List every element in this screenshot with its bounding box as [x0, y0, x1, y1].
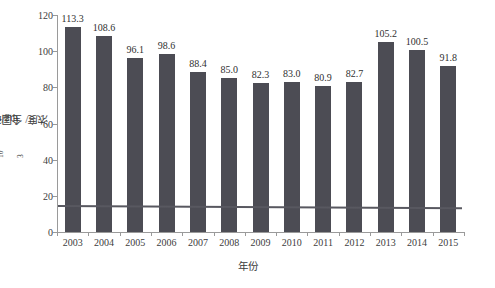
x-axis-tick-mark	[120, 232, 121, 236]
x-axis-category-label: 2015	[438, 237, 458, 248]
x-axis-tick-mark	[245, 232, 246, 236]
chart-figure: 全国平均城市PM10浓度/（μg/m3） 020406080100120 113…	[0, 0, 495, 288]
x-axis-category-label: 2003	[63, 237, 83, 248]
bar-value-label: 85.0	[220, 64, 238, 75]
bar-value-label: 108.6	[93, 22, 116, 33]
y-axis-tick-mark	[53, 51, 58, 52]
bar	[409, 50, 425, 232]
y-axis-title-prefix: 全国平均城市PM	[0, 113, 23, 128]
x-axis-tick-mark	[370, 232, 371, 236]
y-axis-title: 全国平均城市PM10浓度/（μg/m3）	[0, 0, 22, 240]
bar-value-label: 100.5	[406, 36, 429, 47]
x-axis-category-label: 2007	[188, 237, 208, 248]
x-axis-tick-mark	[339, 232, 340, 236]
y-axis-tick-mark	[53, 15, 58, 16]
y-axis-tick-label: 0	[48, 227, 53, 238]
bar	[221, 78, 237, 232]
y-axis-tick-label: 40	[43, 154, 53, 165]
x-axis-category-label: 2004	[94, 237, 114, 248]
y-axis-tick-mark	[53, 87, 58, 88]
x-axis-tick-mark	[182, 232, 183, 236]
bar-value-label: 88.4	[189, 58, 207, 69]
plot-area: 020406080100120 113.3108.696.198.688.485…	[57, 15, 464, 232]
bar-value-label: 113.3	[62, 13, 84, 24]
y-axis-tick-mark	[53, 124, 58, 125]
x-axis-tick-mark	[151, 232, 152, 236]
x-axis-category-label: 2013	[376, 237, 396, 248]
x-axis-tick-mark	[307, 232, 308, 236]
x-axis-category-label: 2011	[313, 237, 333, 248]
bar	[378, 42, 394, 232]
bar	[65, 27, 81, 232]
y-axis-title-superscript: 3	[17, 154, 26, 158]
bar-value-label: 82.3	[252, 69, 270, 80]
y-axis-tick: 80	[57, 87, 58, 88]
bar	[96, 36, 112, 232]
bar	[346, 82, 362, 232]
x-axis-category-label: 2014	[407, 237, 427, 248]
x-axis-category-label: 2008	[219, 237, 239, 248]
bar-value-label: 80.9	[314, 72, 332, 83]
x-axis-tick-mark	[464, 232, 465, 236]
y-axis-tick: 120	[57, 15, 58, 16]
y-axis-tick-mark	[53, 196, 58, 197]
bar-value-label: 98.6	[158, 40, 176, 51]
x-axis-tick-mark	[214, 232, 215, 236]
y-axis-title-subscript: 10	[0, 150, 6, 158]
x-axis-tick-mark	[401, 232, 402, 236]
x-axis-category-label: 2009	[251, 237, 271, 248]
x-axis-category-label: 2005	[125, 237, 145, 248]
bar	[190, 72, 206, 232]
bar-value-label: 105.2	[374, 28, 397, 39]
y-axis-tick-label: 100	[38, 46, 53, 57]
x-axis-category-label: 2006	[157, 237, 177, 248]
y-axis-tick: 20	[57, 196, 58, 197]
x-axis-tick-mark	[57, 232, 58, 236]
y-axis-title-text: 全国平均城市PM10浓度/（μg/m3）	[0, 82, 45, 157]
x-axis-category-label: 2010	[282, 237, 302, 248]
bar	[315, 86, 331, 232]
y-axis-tick-mark	[53, 160, 58, 161]
y-axis-tick-label: 20	[43, 190, 53, 201]
x-axis-tick-mark	[433, 232, 434, 236]
x-axis-category-label: 2012	[344, 237, 364, 248]
x-axis-title: 年份	[0, 258, 495, 273]
bar-value-label: 83.0	[283, 68, 301, 79]
y-axis-tick-label: 60	[43, 118, 53, 129]
bar-value-label: 96.1	[127, 44, 145, 55]
x-axis-tick-mark	[88, 232, 89, 236]
y-axis-title-middle: 浓度/（μg/m	[0, 113, 49, 128]
bar	[284, 82, 300, 232]
y-axis-tick-label: 120	[38, 10, 53, 21]
bar	[253, 83, 269, 232]
y-axis-tick: 100	[57, 51, 58, 52]
x-axis-tick-mark	[276, 232, 277, 236]
x-axis-line	[57, 232, 464, 233]
bar-value-label: 82.7	[346, 68, 364, 79]
y-axis-tick: 40	[57, 160, 58, 161]
bar-value-label: 91.8	[440, 52, 458, 63]
y-axis-tick-label: 80	[43, 82, 53, 93]
y-axis-tick: 60	[57, 124, 58, 125]
